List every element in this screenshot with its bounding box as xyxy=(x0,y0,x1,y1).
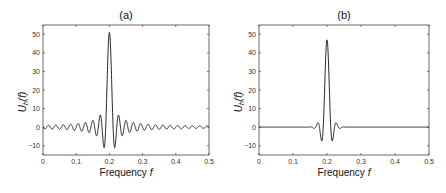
x-tick-label: 0.2 xyxy=(105,158,115,165)
y-tick-label: 10 xyxy=(32,105,40,112)
x-axis-label: Frequency f xyxy=(318,167,372,178)
x-axis-label: Frequency f xyxy=(100,167,154,178)
x-tick-label: 0.5 xyxy=(204,158,214,165)
x-tick-label: 0.5 xyxy=(424,158,434,165)
y-tick-label: 20 xyxy=(32,87,40,94)
y-tick-label: 50 xyxy=(248,31,256,38)
axes-box xyxy=(259,25,429,155)
data-line xyxy=(259,40,429,141)
chart-panel-b: 00.10.20.30.40.5−1001020304050(b)Frequen… xyxy=(233,9,434,178)
y-tick-label: 20 xyxy=(248,87,256,94)
y-tick-label: 0 xyxy=(252,124,256,131)
y-tick-label: −10 xyxy=(28,142,40,149)
y-tick-label: 0 xyxy=(36,124,40,131)
axes-box xyxy=(43,25,209,155)
y-tick-label: −10 xyxy=(244,142,256,149)
x-tick-label: 0.4 xyxy=(390,158,400,165)
y-axis-label: Uh(f) xyxy=(17,92,29,113)
figure: 00.10.20.30.40.5−1001020304050(a)Frequen… xyxy=(0,0,446,193)
x-tick-label: 0.4 xyxy=(171,158,181,165)
y-tick-label: 50 xyxy=(32,31,40,38)
y-tick-label: 40 xyxy=(32,49,40,56)
y-axis-label: Uh(f) xyxy=(233,92,245,113)
x-tick-label: 0.3 xyxy=(138,158,148,165)
chart-title: (b) xyxy=(337,9,350,21)
data-line xyxy=(43,32,209,147)
y-tick-label: 30 xyxy=(248,68,256,75)
x-tick-label: 0.1 xyxy=(288,158,298,165)
y-tick-label: 30 xyxy=(32,68,40,75)
chart-panel-a: 00.10.20.30.40.5−1001020304050(a)Frequen… xyxy=(17,9,214,178)
x-tick-label: 0 xyxy=(41,158,45,165)
x-tick-label: 0.2 xyxy=(322,158,332,165)
y-tick-label: 40 xyxy=(248,49,256,56)
x-tick-label: 0.1 xyxy=(71,158,81,165)
chart-title: (a) xyxy=(119,9,132,21)
x-tick-label: 0 xyxy=(257,158,261,165)
x-tick-label: 0.3 xyxy=(356,158,366,165)
y-tick-label: 10 xyxy=(248,105,256,112)
